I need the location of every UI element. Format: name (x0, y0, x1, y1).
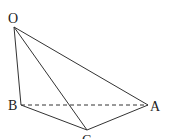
tetrahedron-diagram: O B A C (0, 0, 173, 139)
label-O: O (8, 11, 18, 26)
label-A: A (150, 99, 161, 114)
edge-OB (14, 27, 21, 105)
edge-OA (14, 27, 148, 105)
edge-BC (21, 105, 87, 130)
label-C: C (82, 133, 91, 139)
edge-CA (87, 105, 148, 130)
edge-OC (14, 27, 87, 130)
label-B: B (8, 98, 17, 113)
